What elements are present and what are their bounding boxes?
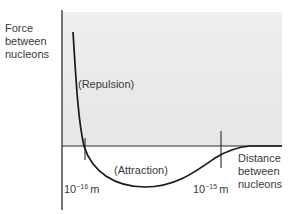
tick-unit: m xyxy=(219,183,228,195)
tick-base: 10 xyxy=(64,183,76,195)
x-axis-label: Distance between nucleons xyxy=(238,152,282,191)
y-axis-label: Force between nucleons xyxy=(5,22,49,61)
tick-exponent: −15 xyxy=(205,183,217,190)
attraction-label: (Attraction) xyxy=(114,164,168,177)
tick-base: 10 xyxy=(193,183,205,195)
tick-label-1e-15: 10−15 m xyxy=(193,167,229,196)
repulsion-label: (Repulsion) xyxy=(78,78,134,91)
tick-label-1e-16: 10−16 m xyxy=(64,167,100,196)
force-distance-diagram: Force between nucleons (Repulsion) (Attr… xyxy=(0,0,293,214)
tick-exponent: −16 xyxy=(76,183,88,190)
tick-unit: m xyxy=(90,183,99,195)
